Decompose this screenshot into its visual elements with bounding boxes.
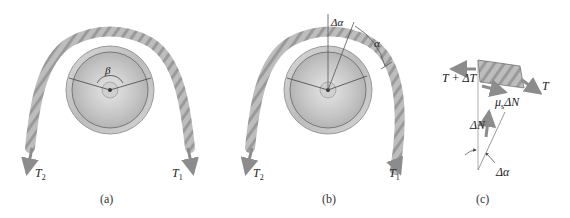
- t2-subscript: 2: [260, 173, 264, 182]
- panel-a-pulley: [27, 32, 193, 174]
- t-arrow: [522, 80, 540, 93]
- t1-subscript: 1: [396, 173, 400, 182]
- delta-n-text: ΔN: [504, 95, 519, 109]
- caption-b: (b): [322, 193, 336, 205]
- t2-label-a: T2: [35, 167, 46, 182]
- t2-label-b: T2: [253, 167, 264, 182]
- t1-symbol: T: [172, 166, 179, 180]
- caption-a: (a): [100, 193, 113, 205]
- alpha-label: α: [374, 38, 380, 49]
- t1-label-b: T1: [389, 167, 400, 182]
- t2-subscript: 2: [42, 173, 46, 182]
- beta-label: β: [105, 65, 110, 76]
- t1-label-a: T1: [172, 167, 183, 182]
- delta-alpha-label-b: Δα: [331, 17, 343, 28]
- t1-symbol: T: [389, 166, 396, 180]
- normal-label: ΔN: [470, 119, 485, 131]
- caption-c: (c): [476, 193, 489, 205]
- rope-segment: [478, 60, 524, 88]
- friction-arrow: [482, 86, 505, 92]
- t2-symbol: T: [35, 166, 42, 180]
- friction-label: μsΔN: [495, 96, 519, 111]
- normal-arrow: [486, 112, 489, 137]
- t-plus-dt-label: T + ΔT: [442, 72, 476, 84]
- t1-subscript: 1: [179, 173, 183, 182]
- t2-symbol: T: [253, 166, 260, 180]
- delta-alpha-label-c: Δα: [496, 166, 509, 178]
- diagram-canvas: [0, 0, 570, 218]
- t-label-c: T: [542, 80, 549, 92]
